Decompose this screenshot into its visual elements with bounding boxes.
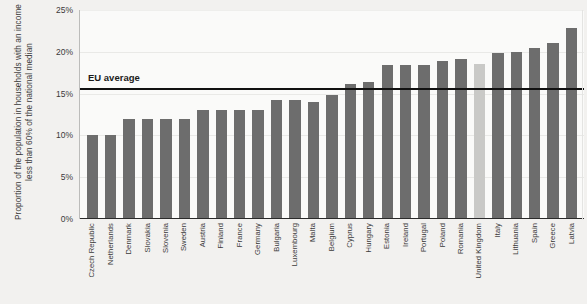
x-label-cell: Poland <box>432 221 450 304</box>
x-tick-label: Slovenia <box>160 223 169 253</box>
x-label-cell: France <box>230 221 248 304</box>
x-label-cell: Finland <box>211 221 229 304</box>
bar-cell <box>212 10 230 219</box>
x-tick-label: Estonia <box>382 223 391 249</box>
x-label-cell: Cyprus <box>340 221 358 304</box>
x-label-cell: Italy <box>488 221 506 304</box>
x-tick-label: Denmark <box>124 223 133 255</box>
y-tick-25: 25% <box>41 5 73 15</box>
bar <box>105 135 116 219</box>
x-label-cell: Portugal <box>414 221 432 304</box>
x-label-cell: Ireland <box>395 221 413 304</box>
x-tick-label: Austria <box>197 223 206 247</box>
bar <box>547 43 558 219</box>
bar <box>363 82 374 219</box>
bar-cell <box>360 10 378 219</box>
bar-cell <box>489 10 507 219</box>
x-tick-label: Romania <box>455 223 464 254</box>
bar-cell <box>138 10 156 219</box>
x-label-cell: United Kingdom <box>469 221 487 304</box>
bar <box>345 84 356 219</box>
x-label-cell: Czech Republic <box>82 221 100 304</box>
y-tick-15: 15% <box>41 89 73 99</box>
bar-cell <box>507 10 525 219</box>
x-tick-label: Spain <box>529 223 538 243</box>
bar-cell <box>120 10 138 219</box>
x-label-cell: Belgium <box>322 221 340 304</box>
bar <box>271 100 282 219</box>
x-label-cell: Bulgaria <box>266 221 284 304</box>
x-tick-label: Lithuania <box>511 223 520 255</box>
x-tick-label: Belgium <box>326 223 335 251</box>
x-tick-label: Cyprus <box>345 223 354 248</box>
x-label-cell: Germany <box>248 221 266 304</box>
bar-cell <box>433 10 451 219</box>
x-tick-label: Germany <box>253 223 262 255</box>
x-label-cell: Lithuania <box>506 221 524 304</box>
x-label-cell: Slovakia <box>137 221 155 304</box>
y-axis-tick-labels: 25% 20% 15% 10% 5% 0% <box>41 0 73 304</box>
bar-cell <box>249 10 267 219</box>
bar-cell <box>83 10 101 219</box>
bar-chart: Proportion of the population in househol… <box>0 0 587 304</box>
bar <box>566 28 577 219</box>
bar <box>455 59 466 220</box>
y-tick-0: 0% <box>41 214 73 224</box>
x-tick-label: Greece <box>548 223 557 249</box>
x-label-cell: Malta <box>303 221 321 304</box>
bar-cell <box>157 10 175 219</box>
x-tick-label: Finland <box>216 223 225 249</box>
x-tick-label: Sweden <box>179 223 188 251</box>
bar-cell <box>396 10 414 219</box>
x-label-cell: Luxembourg <box>285 221 303 304</box>
x-tick-label: Poland <box>437 223 446 247</box>
x-axis-tick-labels: Czech RepublicNetherlandsDenmarkSlovakia… <box>79 221 583 304</box>
bar <box>234 110 245 219</box>
x-label-cell: Netherlands <box>100 221 118 304</box>
x-label-cell: Slovenia <box>156 221 174 304</box>
bar-cell <box>175 10 193 219</box>
bar-cell <box>323 10 341 219</box>
bar <box>142 119 153 219</box>
x-label-cell: Sweden <box>174 221 192 304</box>
bar-cell <box>544 10 562 219</box>
bar-cell <box>341 10 359 219</box>
x-axis-baseline <box>80 218 584 220</box>
x-tick-label: Luxembourg <box>290 223 299 266</box>
bar-series <box>80 10 584 219</box>
bar <box>216 110 227 219</box>
x-label-cell: Latvia <box>561 221 579 304</box>
x-label-cell: Romania <box>451 221 469 304</box>
bar-cell <box>452 10 470 219</box>
x-tick-label: Bulgaria <box>271 223 280 252</box>
bar-cell <box>304 10 322 219</box>
bar-cell <box>194 10 212 219</box>
plot-area: EU average <box>79 10 584 219</box>
x-label-cell: Denmark <box>119 221 137 304</box>
y-tick-20: 20% <box>41 47 73 57</box>
bar-cell <box>526 10 544 219</box>
x-tick-label: Malta <box>308 223 317 242</box>
bar <box>252 110 263 219</box>
bar <box>179 119 190 219</box>
bar-cell <box>231 10 249 219</box>
bar-cell <box>286 10 304 219</box>
bar-cell <box>378 10 396 219</box>
bar <box>289 100 300 219</box>
y-tick-10: 10% <box>41 130 73 140</box>
bar <box>492 53 503 219</box>
x-tick-label: France <box>234 223 243 247</box>
eu-average-label: EU average <box>88 72 140 83</box>
x-label-cell: Spain <box>525 221 543 304</box>
x-tick-label: Netherlands <box>105 223 114 265</box>
x-label-cell: Estonia <box>377 221 395 304</box>
plot-right-edge <box>582 10 583 220</box>
x-label-cell: Hungary <box>359 221 377 304</box>
bar <box>123 119 134 219</box>
bar-cell <box>470 10 488 219</box>
x-tick-label: Ireland <box>400 223 409 247</box>
x-label-cell: Greece <box>543 221 561 304</box>
bar <box>197 110 208 219</box>
bar <box>326 95 337 219</box>
bar-cell <box>562 10 580 219</box>
